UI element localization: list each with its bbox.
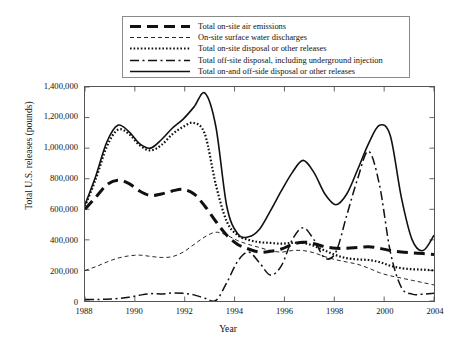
series-line — [85, 93, 434, 251]
y-tick-label: 0 — [4, 297, 78, 307]
legend-item-label: Total off-site disposal, including under… — [198, 56, 383, 65]
legend-item: Total on-site air emissions — [129, 21, 403, 32]
y-tick-label: 1,400,000 — [4, 81, 78, 91]
legend-item: Total on-site disposal or other releases — [129, 43, 403, 54]
legend-line-swatch — [129, 21, 191, 32]
x-tick-label: 1990 — [109, 306, 159, 316]
legend-item: Total off-site disposal, including under… — [129, 55, 403, 66]
x-tick-label: 2004 — [410, 306, 456, 316]
y-tick-label: 600,000 — [4, 204, 78, 214]
y-tick-label: 800,000 — [4, 173, 78, 183]
legend-line-swatch — [129, 66, 191, 77]
y-tick-label: 1,000,000 — [4, 142, 78, 152]
legend-line-swatch — [129, 55, 191, 66]
plot-area — [84, 86, 435, 302]
legend-line-swatch — [129, 43, 191, 54]
y-axis-title: Total U.S. releases (pounds) — [23, 71, 34, 241]
x-tick-label: 1998 — [310, 306, 360, 316]
x-tick-label: 1994 — [209, 306, 259, 316]
chart-figure: Total on-site air emissionsOn-site surfa… — [0, 0, 456, 347]
y-tick-label: 1,200,000 — [4, 111, 78, 121]
legend-item-label: Total on-and off-side disposal or other … — [198, 67, 355, 76]
legend-item: Total on-and off-side disposal or other … — [129, 66, 403, 77]
x-tick-label: 1992 — [159, 306, 209, 316]
legend-item: On-site surface water discharges — [129, 32, 403, 43]
y-tick-label: 400,000 — [4, 235, 78, 245]
x-axis-title: Year — [0, 323, 456, 334]
legend-item-label: Total on-site disposal or other releases — [198, 44, 327, 53]
series-lines — [85, 87, 434, 301]
x-tick-label: 1988 — [59, 306, 109, 316]
x-tick-label: 2000 — [360, 306, 410, 316]
legend-item-label: Total on-site air emissions — [198, 22, 286, 31]
legend-item-label: On-site surface water discharges — [198, 33, 307, 42]
x-tick-label: 1996 — [260, 306, 310, 316]
series-line — [85, 232, 434, 285]
chart-legend: Total on-site air emissionsOn-site surfa… — [122, 16, 410, 78]
legend-line-swatch — [129, 32, 191, 43]
y-tick-label: 200,000 — [4, 266, 78, 276]
series-line — [85, 151, 434, 301]
